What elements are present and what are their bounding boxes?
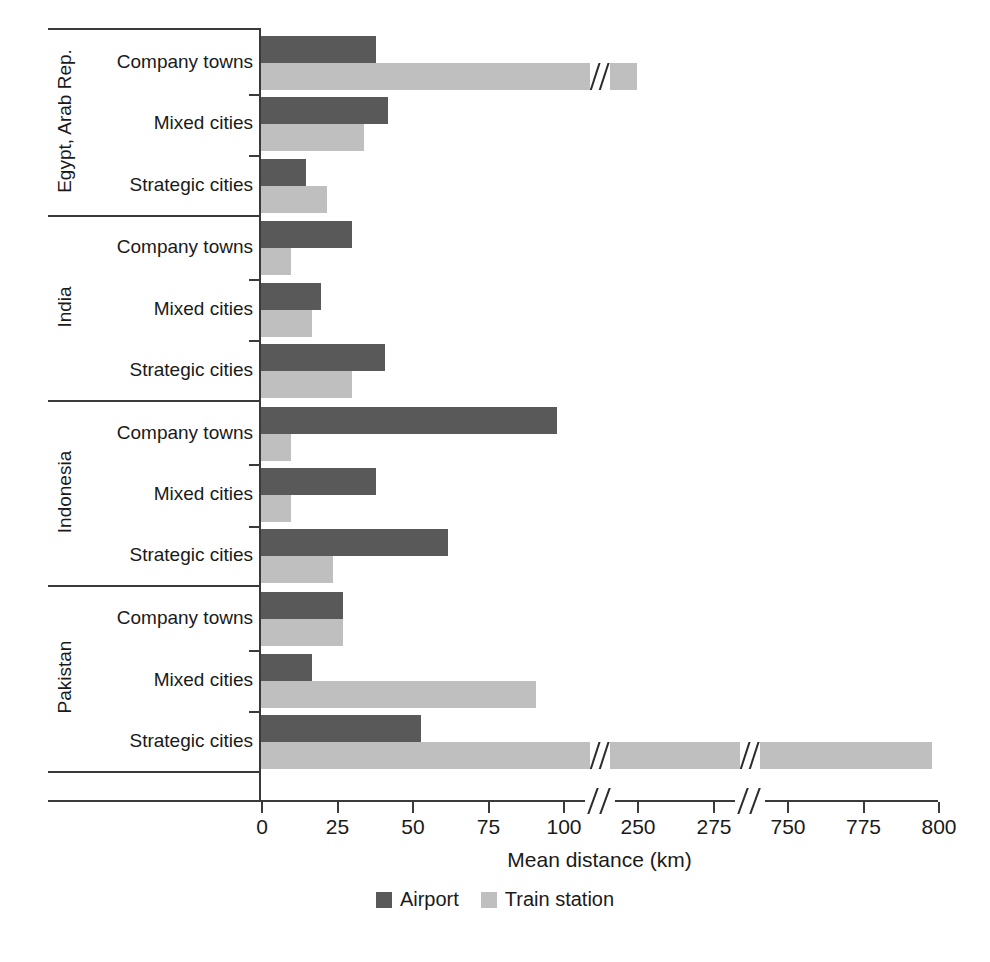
x-axis-line <box>48 800 938 802</box>
y-axis-category-label: Strategic cities <box>53 360 253 380</box>
y-axis-category-label: Mixed cities <box>53 113 253 133</box>
x-axis-tick <box>787 802 789 813</box>
x-axis-break-icon <box>735 788 765 814</box>
bar-train <box>261 619 343 646</box>
x-axis-tick <box>337 802 339 813</box>
bar-airport <box>261 715 421 742</box>
y-axis-category-label: Company towns <box>53 237 253 257</box>
x-axis-tick-label: 100 <box>534 815 594 839</box>
x-axis-tick-label: 50 <box>383 815 443 839</box>
y-axis-minor-tick <box>249 711 261 713</box>
y-axis-minor-tick <box>249 526 261 528</box>
y-axis-category-label: Company towns <box>53 423 253 443</box>
y-axis-minor-tick <box>249 279 261 281</box>
x-axis-tick <box>938 802 940 813</box>
horizontal-bar-chart: Company townsMixed citiesStrategic citie… <box>0 0 990 962</box>
y-axis-category-label: Strategic cities <box>53 175 253 195</box>
bar-train <box>261 434 291 461</box>
x-axis-tick-label: 750 <box>758 815 818 839</box>
y-axis-minor-tick <box>249 340 261 342</box>
bar-train <box>261 681 536 708</box>
country-group-label: Indonesia <box>48 399 82 586</box>
bar-train <box>261 186 327 213</box>
bars-layer <box>261 28 938 800</box>
bar-axis-break-icon <box>590 742 610 769</box>
bar-axis-break-icon <box>590 63 610 90</box>
x-axis-tick-label: 800 <box>909 815 969 839</box>
bar-train <box>261 310 312 337</box>
bar-airport <box>261 97 388 124</box>
bar-train <box>261 371 352 398</box>
bar-airport <box>261 36 376 63</box>
x-axis-break-icon <box>585 788 615 814</box>
legend-swatch-airport-icon <box>376 892 392 908</box>
x-axis-tick <box>488 802 490 813</box>
bar-airport <box>261 529 448 556</box>
bar-airport <box>261 344 385 371</box>
country-group-rule <box>48 771 261 773</box>
y-axis-minor-tick <box>249 94 261 96</box>
bar-train <box>261 248 291 275</box>
country-group-label: Pakistan <box>48 584 82 771</box>
x-axis-tick <box>412 802 414 813</box>
x-axis-tick-label: 75 <box>459 815 519 839</box>
y-axis-category-label: Company towns <box>53 608 253 628</box>
bar-airport <box>261 654 312 681</box>
y-axis-category-label: Mixed cities <box>53 670 253 690</box>
y-axis-category-label: Mixed cities <box>53 484 253 504</box>
x-axis-tick <box>713 802 715 813</box>
x-axis-tick <box>261 802 263 813</box>
bar-train <box>261 495 291 522</box>
y-axis-category-label: Strategic cities <box>53 545 253 565</box>
y-axis-category-label: Company towns <box>53 52 253 72</box>
bar-axis-break-icon <box>740 742 760 769</box>
bar-train <box>261 63 637 90</box>
y-axis-minor-tick <box>249 464 261 466</box>
y-axis-minor-tick <box>249 650 261 652</box>
y-axis-minor-tick <box>249 155 261 157</box>
chart-legend: Airport Train station <box>0 888 990 911</box>
legend-item-airport[interactable]: Airport <box>376 888 459 911</box>
bar-airport <box>261 407 557 434</box>
bar-airport <box>261 592 343 619</box>
x-axis-tick-label: 0 <box>232 815 292 839</box>
bar-airport <box>261 468 376 495</box>
bar-train <box>261 124 364 151</box>
x-axis-tick <box>637 802 639 813</box>
bar-airport <box>261 221 352 248</box>
x-axis-tick <box>863 802 865 813</box>
bar-airport <box>261 159 306 186</box>
legend-label-train-station: Train station <box>505 888 614 911</box>
x-axis-tick-label: 250 <box>608 815 668 839</box>
country-group-label: India <box>48 213 82 400</box>
bar-airport <box>261 283 321 310</box>
y-axis-category-label: Mixed cities <box>53 299 253 319</box>
x-axis-tick-label: 25 <box>308 815 368 839</box>
legend-item-train-station[interactable]: Train station <box>481 888 614 911</box>
y-axis-category-label: Strategic cities <box>53 731 253 751</box>
bar-train <box>261 556 333 583</box>
x-axis-tick-label: 275 <box>684 815 744 839</box>
x-axis-tick <box>563 802 565 813</box>
legend-swatch-train-station-icon <box>481 892 497 908</box>
legend-label-airport: Airport <box>400 888 459 911</box>
x-axis-title: Mean distance (km) <box>261 848 938 872</box>
country-group-label: Egypt, Arab Rep. <box>48 28 82 215</box>
x-axis-tick-label: 775 <box>834 815 894 839</box>
